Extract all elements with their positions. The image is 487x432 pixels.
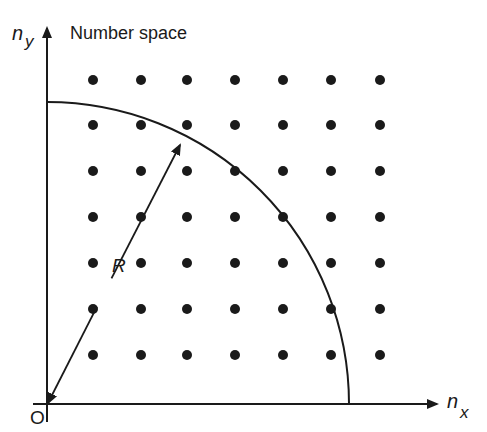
lattice-point [88,75,98,85]
lattice-point [182,304,192,314]
lattice-point [375,166,385,176]
number-space-diagram [0,0,487,432]
lattice-point [230,350,240,360]
lattice-point [88,212,98,222]
lattice-point [136,75,146,85]
lattice-point [182,212,192,222]
origin-label: O [30,408,45,427]
y-axis-subscript: y [25,33,34,50]
lattice-point [278,120,288,130]
lattice-point [326,166,336,176]
radius-label: R [112,256,126,275]
lattice-point [230,75,240,85]
lattice-point [278,258,288,268]
lattice-point [182,258,192,268]
lattice-point [375,120,385,130]
lattice-point [182,75,192,85]
lattice-point [326,350,336,360]
lattice-point [326,258,336,268]
lattice-point [278,75,288,85]
lattice-point [230,258,240,268]
lattice-point [278,350,288,360]
x-axis-subscript: x [460,404,469,421]
lattice-point [88,120,98,130]
lattice-point [230,304,240,314]
lattice-point [326,212,336,222]
x-axis-label: n [447,391,458,411]
lattice-point [182,120,192,130]
lattice-point [230,212,240,222]
lattice-point [375,75,385,85]
lattice-point [136,304,146,314]
lattice-point [88,166,98,176]
y-axis-label: n [12,23,23,43]
lattice-point [375,350,385,360]
lattice-point [182,350,192,360]
lattice-point [278,304,288,314]
lattice-point [88,350,98,360]
lattice-point [182,166,192,176]
lattice-point [136,350,146,360]
lattice-point [136,120,146,130]
lattice-point [375,212,385,222]
lattice-point [326,75,336,85]
lattice-point [230,120,240,130]
lattice-point [375,304,385,314]
lattice-point [326,120,336,130]
lattice-point [88,258,98,268]
lattice-point [136,166,146,176]
lattice-points [88,75,385,360]
lattice-point [375,258,385,268]
diagram-title: Number space [70,24,187,42]
lattice-point [278,166,288,176]
lattice-point [136,258,146,268]
